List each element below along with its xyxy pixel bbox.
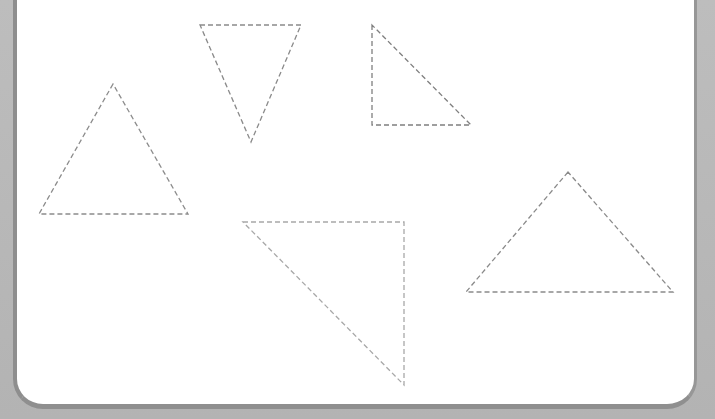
triangle-upright-left	[39, 84, 188, 214]
triangle-inverted	[200, 25, 301, 142]
triangle-obtuse-right	[466, 172, 673, 292]
triangle-tracing-canvas	[0, 0, 715, 419]
triangle-right-top	[372, 25, 471, 125]
triangle-right-bottom	[243, 222, 404, 385]
